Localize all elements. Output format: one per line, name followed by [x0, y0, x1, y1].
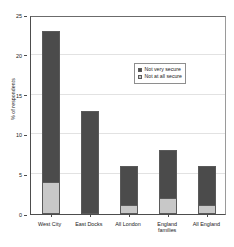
- y-axis-tick: 25: [0, 12, 30, 20]
- legend-label: Not very secure: [145, 66, 181, 73]
- chart-legend: Not very secureNot at all secure: [134, 63, 186, 84]
- bar-segment-not-very-secure[interactable]: [121, 167, 137, 205]
- legend-swatch-icon: [138, 75, 142, 79]
- x-axis-tick-mark: [90, 214, 91, 217]
- bar-stack[interactable]: [42, 31, 60, 214]
- x-axis-label: All London: [108, 221, 147, 227]
- bar-stack[interactable]: [198, 166, 216, 214]
- legend-label: Not at all secure: [145, 73, 182, 80]
- bar-stack[interactable]: [120, 166, 138, 214]
- x-axis-label: East Docks: [69, 221, 108, 227]
- plot-area: [30, 16, 226, 215]
- y-axis-tick-mark: [24, 95, 27, 96]
- bars-layer: [31, 17, 225, 214]
- x-axis-label-line: West City: [30, 221, 69, 227]
- y-axis-tick-label: 25: [16, 12, 22, 20]
- y-axis-tick-label: 15: [16, 92, 22, 100]
- bar-group[interactable]: [159, 15, 177, 214]
- y-axis-tick-label: 5: [19, 171, 22, 179]
- bar-stack[interactable]: [159, 150, 177, 214]
- bar-segment-not-very-secure[interactable]: [82, 112, 98, 213]
- y-axis-tick-mark: [24, 215, 27, 216]
- y-axis-tick-label: 10: [16, 131, 22, 139]
- y-axis-tick: 5: [0, 171, 30, 179]
- legend-swatch-icon: [138, 68, 142, 72]
- y-axis-tick: 15: [0, 92, 30, 100]
- y-axis-tick-mark: [24, 55, 27, 56]
- bar-group[interactable]: [120, 15, 138, 214]
- y-axis-tick-mark: [24, 16, 27, 17]
- x-axis-tick-mark: [129, 214, 130, 217]
- x-axis-tick-mark: [207, 214, 208, 217]
- legend-item[interactable]: Not at all secure: [138, 73, 182, 80]
- bar-segment-not-at-all-secure[interactable]: [43, 182, 59, 213]
- stacked-bar-chart: % of respondents 0510152025 West CityEas…: [0, 0, 234, 247]
- x-axis-tick-mark: [51, 214, 52, 217]
- bar-segment-not-at-all-secure[interactable]: [121, 205, 137, 213]
- bar-segment-not-very-secure[interactable]: [43, 32, 59, 182]
- x-axis-label: West City: [30, 221, 69, 227]
- x-axis-label-line: All London: [108, 221, 147, 227]
- x-axis-label-line: All England: [187, 221, 226, 227]
- y-axis-tick-label: 0: [19, 211, 22, 219]
- bar-group[interactable]: [198, 15, 216, 214]
- bar-segment-not-very-secure[interactable]: [199, 167, 215, 205]
- y-axis-tick: 10: [0, 131, 30, 139]
- x-axis-label-line: East Docks: [69, 221, 108, 227]
- x-axis-label: Englandfamilies: [148, 221, 187, 234]
- legend-item[interactable]: Not very secure: [138, 66, 182, 73]
- y-axis-tick: 0: [0, 211, 30, 219]
- bar-group[interactable]: [81, 15, 99, 214]
- bar-segment-not-at-all-secure[interactable]: [160, 198, 176, 213]
- y-axis-tick-mark: [24, 175, 27, 176]
- y-axis-tick: 20: [0, 52, 30, 60]
- x-axis-tick-mark: [168, 214, 169, 217]
- bar-group[interactable]: [42, 15, 60, 214]
- x-axis-label-line: families: [148, 227, 187, 233]
- x-axis-label: All England: [187, 221, 226, 227]
- bar-stack[interactable]: [81, 111, 99, 214]
- y-axis-tick-mark: [24, 135, 27, 136]
- y-axis-tick-label: 20: [16, 52, 22, 60]
- bar-segment-not-very-secure[interactable]: [160, 151, 176, 197]
- bar-segment-not-at-all-secure[interactable]: [199, 205, 215, 213]
